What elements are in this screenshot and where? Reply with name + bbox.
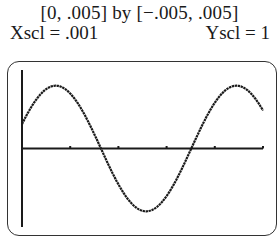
axes: [22, 70, 263, 227]
graph-plot: [0, 0, 279, 244]
